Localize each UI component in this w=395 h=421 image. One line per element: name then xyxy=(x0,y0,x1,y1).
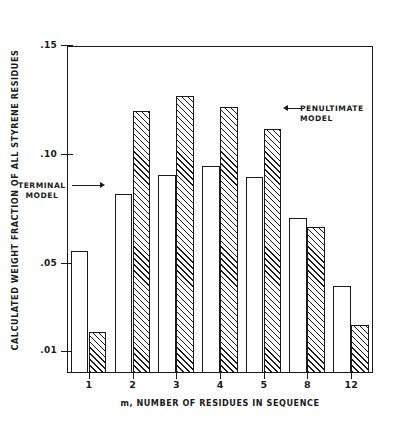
bar-open-m1 xyxy=(71,251,89,373)
bar-hatched-m5 xyxy=(264,129,282,373)
bar-open-m12 xyxy=(333,286,351,373)
chart-root: CALCULATED WEIGHT FRACTION OF ALL STYREN… xyxy=(0,0,395,421)
annotation-terminal-model-line2: MODEL xyxy=(18,191,66,201)
x-axis-title: m, NUMBER OF RESIDUES IN SEQUENCE xyxy=(67,398,373,408)
annotation-penultimate-model-line2: MODEL xyxy=(300,114,364,124)
y-tick-label: .10 xyxy=(17,149,57,159)
y-tick-label: .05 xyxy=(17,258,57,268)
bar-open-m5 xyxy=(246,177,264,373)
bar-open-m3 xyxy=(158,175,176,373)
bar-hatched-m12 xyxy=(351,325,369,373)
annotation-terminal-arrow-icon xyxy=(100,182,105,188)
x-tick-label: 5 xyxy=(244,379,284,390)
annotation-terminal-model: TERMINAL MODEL xyxy=(18,181,66,201)
annotation-terminal-leader-line xyxy=(72,185,100,186)
y-tick-mark xyxy=(61,45,73,46)
bar-hatched-m8 xyxy=(307,227,325,373)
bar-open-m8 xyxy=(289,218,307,373)
y-tick-label: .15 xyxy=(17,40,57,50)
x-tick-label: 8 xyxy=(287,379,327,390)
bar-hatched-m2 xyxy=(133,111,151,373)
annotation-terminal-model-line1: TERMINAL xyxy=(18,181,66,191)
x-tick-label: 4 xyxy=(200,379,240,390)
bar-hatched-m4 xyxy=(220,107,238,373)
annotation-penultimate-leader-line xyxy=(288,108,302,109)
annotation-penultimate-arrow-icon xyxy=(283,105,288,111)
x-tick-label: 12 xyxy=(331,379,371,390)
bar-hatched-m3 xyxy=(176,96,194,373)
annotation-penultimate-model-line1: PENULTIMATE xyxy=(300,104,364,114)
x-tick-label: 2 xyxy=(113,379,153,390)
y-tick-mark xyxy=(61,154,73,155)
y-tick-label: .01 xyxy=(17,345,57,355)
x-tick-label: 1 xyxy=(69,379,109,390)
bar-open-m2 xyxy=(115,194,133,373)
annotation-penultimate-model: PENULTIMATE MODEL xyxy=(300,104,364,124)
x-tick-label: 3 xyxy=(156,379,196,390)
bar-open-m4 xyxy=(202,166,220,373)
bar-hatched-m1 xyxy=(89,332,107,373)
